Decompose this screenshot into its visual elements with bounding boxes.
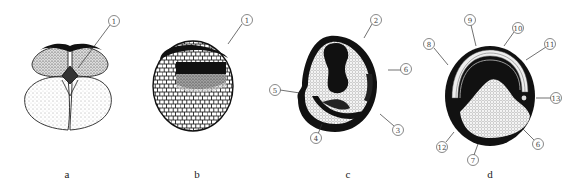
callout-7: 7 [468, 155, 479, 166]
embryo-b-drawing [153, 41, 233, 131]
callout-12: 12 [437, 142, 448, 153]
svg-text:11: 11 [546, 41, 555, 49]
svg-text:3: 3 [396, 127, 400, 135]
embryo-d-drawing [445, 46, 535, 146]
callout-9: 9 [465, 15, 476, 26]
panel-label-d: d [487, 168, 493, 180]
svg-text:7: 7 [471, 157, 475, 165]
svg-text:6: 6 [536, 141, 541, 149]
leader-line [504, 32, 514, 46]
embryo-development-figure: 1 a 1 b [0, 0, 580, 192]
leader-line [280, 90, 300, 93]
panel-label-a: a [65, 168, 70, 180]
panel-d: 8 9 10 11 13 6 12 [424, 15, 562, 181]
callout-2: 2 [371, 15, 382, 26]
leader-line [380, 114, 394, 126]
svg-text:8: 8 [427, 41, 431, 49]
svg-text:6: 6 [404, 66, 409, 74]
callout-6: 6 [533, 139, 544, 150]
svg-text:12: 12 [438, 144, 447, 152]
panel-a: 1 a [25, 16, 120, 181]
callout-5: 5 [270, 85, 281, 96]
panel-b: 1 b [153, 15, 253, 181]
panel-label-b: b [194, 168, 200, 180]
callout-8: 8 [424, 39, 435, 50]
callout-13: 13 [551, 93, 562, 104]
svg-text:5: 5 [273, 87, 277, 95]
svg-text:1: 1 [245, 17, 249, 25]
svg-text:1: 1 [112, 18, 116, 26]
leader-line [526, 47, 546, 60]
callout-1: 1 [109, 16, 120, 27]
embryo-a-drawing [25, 44, 112, 130]
callout-11: 11 [545, 39, 556, 50]
svg-text:4: 4 [314, 135, 319, 143]
callout-4: 4 [311, 133, 322, 144]
leader-line [522, 128, 534, 140]
svg-text:10: 10 [514, 25, 523, 33]
leader-line [434, 48, 448, 65]
callout-1: 1 [242, 15, 253, 26]
svg-text:13: 13 [552, 95, 561, 103]
leader-line [228, 24, 242, 44]
embryo-c-drawing [297, 36, 377, 132]
panel-label-c: c [346, 168, 351, 180]
leader-line [471, 25, 476, 46]
svg-text:2: 2 [374, 17, 378, 25]
svg-text:9: 9 [468, 17, 472, 25]
leader-line [446, 132, 454, 142]
callout-3: 3 [393, 125, 404, 136]
panel-c: 2 3 4 5 6 c [270, 15, 412, 181]
leader-line [474, 144, 478, 155]
callout-6: 6 [401, 64, 412, 75]
leader-line [364, 24, 372, 38]
callout-10: 10 [513, 23, 524, 34]
